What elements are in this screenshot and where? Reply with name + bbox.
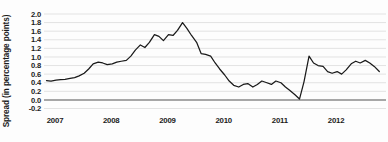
x-axis-tick-label: 2010 <box>215 116 232 125</box>
x-axis-tick-label: 2012 <box>328 116 345 125</box>
x-axis-tick-label: 2008 <box>103 116 120 125</box>
spread-line-chart: 2.01.81.61.41.21.00.80.60.40.20.0-0.2 20… <box>0 0 388 142</box>
chart-container: 2.01.81.61.41.21.00.80.60.40.20.0-0.2 20… <box>0 0 388 142</box>
y-axis-tick-labels: 2.01.81.61.41.21.00.80.60.40.20.0-0.2 <box>29 10 42 114</box>
x-axis-tick-label: 2009 <box>159 116 176 125</box>
y-axis-tick-label: -0.2 <box>29 104 41 113</box>
x-axis-tick-label: 2007 <box>47 116 64 125</box>
x-axis-tick-label: 2011 <box>272 116 289 125</box>
y-axis-label: Spread (in percentage points) <box>2 14 11 127</box>
